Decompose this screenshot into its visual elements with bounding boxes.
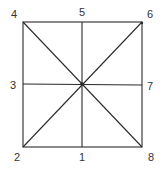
center-point bbox=[80, 82, 84, 86]
label-2: 2 bbox=[14, 151, 20, 163]
label-4: 4 bbox=[11, 8, 17, 20]
corner-point-6 bbox=[141, 22, 143, 24]
label-8: 8 bbox=[148, 151, 154, 163]
label-5: 5 bbox=[79, 6, 85, 18]
label-7: 7 bbox=[147, 80, 153, 92]
square-diagram: 1 2 3 4 5 6 7 8 bbox=[0, 0, 162, 171]
label-3: 3 bbox=[10, 79, 16, 91]
label-6: 6 bbox=[147, 8, 153, 20]
label-1: 1 bbox=[79, 151, 85, 163]
